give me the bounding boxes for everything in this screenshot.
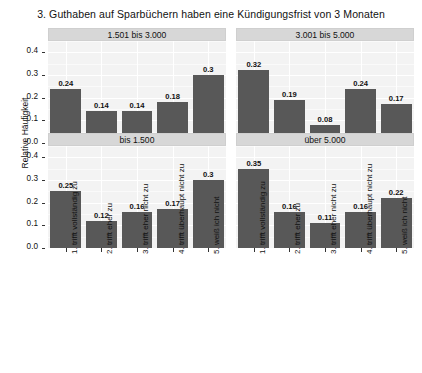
y-tick-label: 0.4 xyxy=(14,47,38,55)
bar-value-label: 0.08 xyxy=(310,115,341,124)
y-tick-mark xyxy=(42,52,45,53)
y-tick-label: 0.4 xyxy=(14,152,38,160)
bar-value-label: 0.19 xyxy=(274,90,305,99)
y-tick-mark xyxy=(42,180,45,181)
x-tick-mark xyxy=(361,248,362,252)
x-category-label: 2. trifft eher zu xyxy=(105,203,114,254)
plot-area: 0.320.190.080.240.17 xyxy=(236,41,414,143)
x-category-label: 5. weiß ich nicht xyxy=(400,197,409,254)
facet-strip-label: 1.501 bis 3.000 xyxy=(48,28,226,41)
x-tick-mark xyxy=(208,248,209,252)
x-category-label: 1. trifft vollständig zu xyxy=(258,181,267,254)
x-tick-mark xyxy=(66,248,67,252)
y-tick-label: 0.0 xyxy=(14,243,38,251)
chart-title: 3. Guthaben auf Sparbüchern haben eine K… xyxy=(0,8,422,20)
y-tick-mark xyxy=(42,120,45,121)
faceted-bar-chart: 3. Guthaben auf Sparbüchern haben eine K… xyxy=(0,0,422,373)
bar-value-label: 0.35 xyxy=(238,159,269,168)
x-category-label: 3. trifft eher nicht zu xyxy=(141,184,150,254)
y-tick-label: 0.0 xyxy=(14,138,38,146)
y-tick-mark xyxy=(42,203,45,204)
bar-value-label: 0.24 xyxy=(50,79,81,88)
bar-value-label: 0.14 xyxy=(86,101,117,110)
bar-value-label: 0.32 xyxy=(238,60,269,69)
x-category-label: 4. trifft überhaupt nicht zu xyxy=(365,164,374,254)
y-tick-mark xyxy=(42,98,45,99)
x-tick-mark xyxy=(173,248,174,252)
x-category-label: 2. trifft eher zu xyxy=(293,203,302,254)
y-tick-label: 0.1 xyxy=(14,115,38,123)
facet-strip-label: bis 1.500 xyxy=(48,133,226,146)
x-tick-mark xyxy=(254,248,255,252)
facet-strip-label: 3.001 bis 5.000 xyxy=(236,28,414,41)
x-tick-mark xyxy=(289,248,290,252)
x-tick-mark xyxy=(101,248,102,252)
x-category-label: 5. weiß ich nicht xyxy=(212,197,221,254)
y-tick-label: 0.2 xyxy=(14,93,38,101)
y-tick-mark xyxy=(42,225,45,226)
x-tick-mark xyxy=(396,248,397,252)
bar-value-label: 0.3 xyxy=(193,170,224,179)
bar-value-label: 0.17 xyxy=(381,94,412,103)
x-tick-mark xyxy=(137,248,138,252)
y-tick-mark xyxy=(42,75,45,76)
x-category-label: 3. trifft eher nicht zu xyxy=(329,184,338,254)
x-category-label: 1. trifft vollständig zu xyxy=(70,181,79,254)
facet-strip-label: über 5.000 xyxy=(236,133,414,146)
y-tick-label: 0.2 xyxy=(14,198,38,206)
facet-panel: 1.501 bis 3.0000.240.140.140.180.3 xyxy=(48,28,226,143)
y-tick-mark xyxy=(42,248,45,249)
bar-value-label: 0.14 xyxy=(122,101,153,110)
x-category-label: 4. trifft überhaupt nicht zu xyxy=(177,164,186,254)
y-tick-label: 0.1 xyxy=(14,220,38,228)
y-tick-label: 0.3 xyxy=(14,70,38,78)
plot-area: 0.240.140.140.180.3 xyxy=(48,41,226,143)
y-tick-mark xyxy=(42,143,45,144)
bar-value-label: 0.24 xyxy=(345,79,376,88)
bar-value-label: 0.3 xyxy=(193,65,224,74)
facet-panel: 3.001 bis 5.0000.320.190.080.240.17 xyxy=(236,28,414,143)
bar-value-label: 0.18 xyxy=(157,92,188,101)
y-tick-label: 0.3 xyxy=(14,175,38,183)
y-tick-mark xyxy=(42,157,45,158)
x-tick-mark xyxy=(325,248,326,252)
